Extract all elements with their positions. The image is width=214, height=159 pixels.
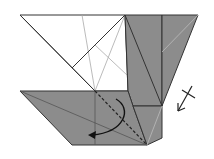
white-paper-region bbox=[20, 15, 128, 91]
turn-over-arrow-icon bbox=[178, 86, 195, 111]
right-flap bbox=[162, 15, 198, 106]
origami-diagram bbox=[0, 0, 214, 159]
